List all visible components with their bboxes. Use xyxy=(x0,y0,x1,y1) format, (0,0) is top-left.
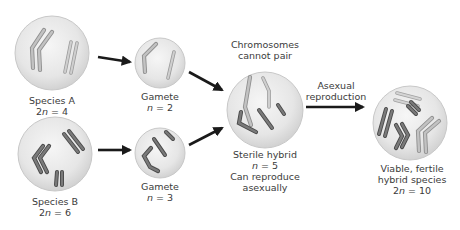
sterile-hybrid-cell xyxy=(227,72,303,148)
arrow-species-a-to-gamete xyxy=(98,57,130,62)
gamete-a-name: Gamete xyxy=(135,91,185,102)
fertile-hybrid-label: Viable, fertile hybrid species 2n = 10 xyxy=(372,163,452,196)
allopolyploidy-diagram: Species A 2n = 4 Species B 2n = 6 Gamete… xyxy=(0,0,460,230)
species-a-label: Species A 2n = 4 xyxy=(22,95,82,117)
fertile-name-line1: Viable, fertile xyxy=(372,163,452,174)
species-a-name: Species A xyxy=(22,95,82,106)
sterile-hybrid-label: Sterile hybrid n = 5 Can reproduce asexu… xyxy=(225,149,305,193)
note-line1: Can reproduce xyxy=(225,171,305,182)
species-b-name: Species B xyxy=(22,196,88,207)
gamete-b-ploidy: n = 3 xyxy=(135,192,185,203)
top-note-line1: Chromosomes xyxy=(225,39,305,50)
note-line2: asexually xyxy=(225,182,305,193)
gamete-b-label: Gamete n = 3 xyxy=(135,181,185,203)
sterile-hybrid-name: Sterile hybrid xyxy=(225,149,305,160)
species-b-ploidy: 2n = 6 xyxy=(22,207,88,218)
ploidy-value: = 3 xyxy=(153,192,173,203)
arrow-gamete-a-to-hybrid xyxy=(189,72,222,90)
gamete-a-ploidy: n = 2 xyxy=(135,102,185,113)
sterile-hybrid-top-note: Chromosomes cannot pair xyxy=(225,39,305,61)
species-a-ploidy: 2n = 4 xyxy=(22,106,82,117)
ploidy-value: = 6 xyxy=(51,207,71,218)
asexual-reproduction-label: Asexual reproduction xyxy=(305,80,367,102)
asexual-line2: reproduction xyxy=(305,91,367,102)
arrow-gamete-b-to-hybrid xyxy=(189,128,222,145)
gamete-b-name: Gamete xyxy=(135,181,185,192)
ploidy-value: = 5 xyxy=(258,160,278,171)
ploidy-value: = 10 xyxy=(405,185,431,196)
species-a-cell xyxy=(15,16,89,90)
fertile-hybrid-ploidy: 2n = 10 xyxy=(372,185,452,196)
gamete-a-cell xyxy=(135,38,185,88)
ploidy-value: = 2 xyxy=(153,102,173,113)
sterile-hybrid-ploidy: n = 5 xyxy=(225,160,305,171)
fertile-name-line2: hybrid species xyxy=(372,174,452,185)
top-note-line2: cannot pair xyxy=(225,50,305,61)
gamete-b-cell xyxy=(135,128,185,178)
fertile-hybrid-cell xyxy=(373,86,447,160)
species-b-label: Species B 2n = 6 xyxy=(22,196,88,218)
species-b-cell xyxy=(18,117,92,191)
asexual-line1: Asexual xyxy=(305,80,367,91)
ploidy-value: = 4 xyxy=(48,106,68,117)
gamete-a-label: Gamete n = 2 xyxy=(135,91,185,113)
